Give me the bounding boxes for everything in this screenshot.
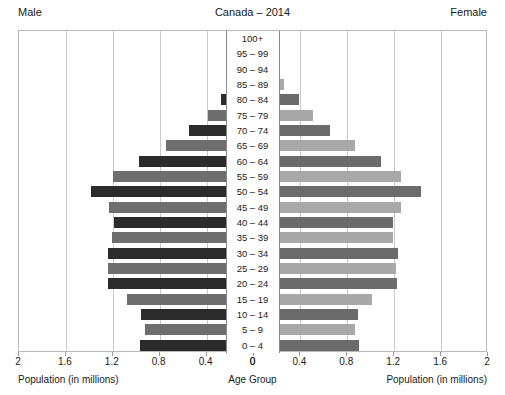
table-row: 80 – 84 bbox=[19, 92, 486, 107]
table-row: 10 – 14 bbox=[19, 307, 486, 322]
age-group-label: 45 – 49 bbox=[226, 200, 280, 215]
table-row: 40 – 44 bbox=[19, 215, 486, 230]
table-row: 15 – 19 bbox=[19, 292, 486, 307]
age-group-rows: 100+95 – 9990 – 9485 – 8980 – 8475 – 797… bbox=[19, 31, 486, 351]
table-row: 20 – 24 bbox=[19, 276, 486, 291]
age-group-label: 0 – 4 bbox=[226, 338, 280, 353]
table-row: 85 – 89 bbox=[19, 77, 486, 92]
age-group-label: 55 – 59 bbox=[226, 169, 280, 184]
age-group-label: 65 – 69 bbox=[226, 138, 280, 153]
table-row: 50 – 54 bbox=[19, 184, 486, 199]
x-axis-label-female: Population (in millions) bbox=[386, 374, 487, 385]
axis-tick-label: 0.8 bbox=[152, 356, 166, 367]
age-group-label: 80 – 84 bbox=[226, 92, 280, 107]
table-row: 45 – 49 bbox=[19, 200, 486, 215]
table-row: 30 – 34 bbox=[19, 246, 486, 261]
age-group-label: 50 – 54 bbox=[226, 184, 280, 199]
table-row: 70 – 74 bbox=[19, 123, 486, 138]
axis-tick-label: 0.4 bbox=[292, 356, 306, 367]
table-row: 0 – 4 bbox=[19, 338, 486, 353]
female-side-label: Female bbox=[450, 6, 487, 18]
table-row: 75 – 79 bbox=[19, 108, 486, 123]
age-group-label: 40 – 44 bbox=[226, 215, 280, 230]
plot-area: 100+95 – 9990 – 9485 – 8980 – 8475 – 797… bbox=[18, 30, 487, 352]
axis-tick-label: 1.6 bbox=[433, 356, 447, 367]
age-group-label: 30 – 34 bbox=[226, 246, 280, 261]
axis-tick-label: 0.4 bbox=[199, 356, 213, 367]
population-pyramid-chart: Male Canada – 2014 Female 100+95 – 9990 … bbox=[0, 0, 505, 395]
axis-tick-label: 0 bbox=[250, 356, 256, 367]
age-group-label: 100+ bbox=[226, 31, 280, 46]
age-group-label: 85 – 89 bbox=[226, 77, 280, 92]
chart-title: Canada – 2014 bbox=[0, 6, 505, 18]
table-row: 100+ bbox=[19, 31, 486, 46]
table-row: 55 – 59 bbox=[19, 169, 486, 184]
table-row: 25 – 29 bbox=[19, 261, 486, 276]
age-group-label: 10 – 14 bbox=[226, 307, 280, 322]
age-group-label: 95 – 99 bbox=[226, 46, 280, 61]
age-group-label: 5 – 9 bbox=[226, 322, 280, 337]
age-group-label: 70 – 74 bbox=[226, 123, 280, 138]
age-group-label: 20 – 24 bbox=[226, 276, 280, 291]
table-row: 95 – 99 bbox=[19, 46, 486, 61]
axis-tick-label: 1.6 bbox=[58, 356, 72, 367]
table-row: 60 – 64 bbox=[19, 154, 486, 169]
axis-tick-label: 1.2 bbox=[105, 356, 119, 367]
axis-tick-label: 1.2 bbox=[386, 356, 400, 367]
age-group-label: 35 – 39 bbox=[226, 230, 280, 245]
axis-tick-label: 2 bbox=[15, 356, 21, 367]
age-group-label: 15 – 19 bbox=[226, 292, 280, 307]
table-row: 35 – 39 bbox=[19, 230, 486, 245]
table-row: 5 – 9 bbox=[19, 322, 486, 337]
axis-tick-label: 0.8 bbox=[339, 356, 353, 367]
x-axis-tick-labels: 21.61.20.80.4000.40.81.21.62 bbox=[0, 356, 505, 370]
age-group-label: 90 – 94 bbox=[226, 62, 280, 77]
age-group-label: 60 – 64 bbox=[226, 154, 280, 169]
table-row: 90 – 94 bbox=[19, 62, 486, 77]
axis-tick-label: 2 bbox=[484, 356, 490, 367]
table-row: 65 – 69 bbox=[19, 138, 486, 153]
age-group-label: 25 – 29 bbox=[226, 261, 280, 276]
age-group-label: 75 – 79 bbox=[226, 108, 280, 123]
